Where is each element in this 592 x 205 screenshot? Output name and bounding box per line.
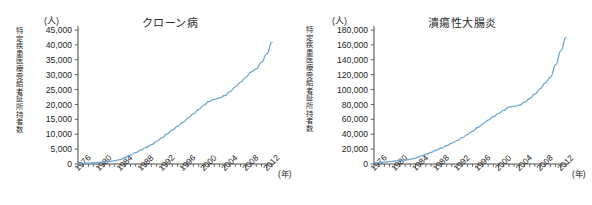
x-tick-label: 1988 xyxy=(135,152,155,172)
chart-svg-crohn: 05,00010,00015,00020,00025,00030,00035,0… xyxy=(26,24,282,176)
y-axis-caption-crohn: 特定疾患医療受給者証所持者数 xyxy=(14,27,24,133)
y-axis-group-crohn: 05,00010,00015,00020,00025,00030,00035,0… xyxy=(46,25,78,169)
y-tick-label: 100,000 xyxy=(337,85,368,95)
y-tick-label: 60,000 xyxy=(342,114,369,124)
y-tick-label: 160,000 xyxy=(337,40,368,50)
y-tick-label: 30,000 xyxy=(46,70,73,80)
x-axis-group-uc: 1976198019841988199219962000200420082012… xyxy=(368,152,585,179)
y-tick-label: 80,000 xyxy=(342,100,369,110)
x-tick-labels: 1976198019841988199219962000200420082012 xyxy=(368,152,575,172)
x-tick-label: 1992 xyxy=(451,152,471,172)
x-tick-label: 1996 xyxy=(472,152,492,172)
y-tick-marks xyxy=(75,30,78,164)
x-tick-label: 1988 xyxy=(431,152,451,172)
x-tick-label: 1984 xyxy=(410,152,430,172)
x-tick-label: 1992 xyxy=(156,152,176,172)
y-tick-marks xyxy=(371,30,374,164)
chart-panel-crohn: クローン病 特定疾患医療受給者証所持者数 (人) 05,00010,00015,… xyxy=(0,0,296,205)
x-tick-labels: 1976198019841988199219962000200420082012 xyxy=(72,152,281,172)
y-tick-label: 20,000 xyxy=(342,144,369,154)
chart-svg-ulcerative-colitis: 020,00040,00060,00080,000100,000120,0001… xyxy=(314,24,578,176)
y-tick-label: 15,000 xyxy=(46,114,73,124)
y-tick-label: 0 xyxy=(67,159,72,169)
data-line-crohn xyxy=(78,42,272,163)
y-tick-label: 180,000 xyxy=(337,25,368,35)
y-tick-label: 45,000 xyxy=(46,25,73,35)
data-line-ulcerative-colitis xyxy=(374,37,566,162)
x-tick-label: 1996 xyxy=(177,152,197,172)
x-tick-label: 1984 xyxy=(114,152,134,172)
y-tick-label: 40,000 xyxy=(46,40,73,50)
x-tick-label: 2008 xyxy=(240,152,260,172)
chart-panel-ulcerative-colitis: 潰瘍性大腸炎 特定疾患医療受給者証所持者数 (人) 020,00040,0006… xyxy=(296,0,592,205)
y-axis-caption-ulcerative-colitis: 特定疾患医療受給者証所持者数 xyxy=(304,26,314,132)
figure-container: クローン病 特定疾患医療受給者証所持者数 (人) 05,00010,00015,… xyxy=(0,0,592,205)
x-axis-unit-label: (年) xyxy=(572,169,586,179)
x-axis-group-crohn: 1976198019841988199219962000200420082012… xyxy=(72,152,291,179)
y-tick-label: 10,000 xyxy=(46,129,73,139)
x-tick-label: 2008 xyxy=(534,152,554,172)
y-tick-labels: 05,00010,00015,00020,00025,00030,00035,0… xyxy=(46,25,73,169)
x-tick-label: 2000 xyxy=(493,152,513,172)
x-axis-unit-label: (年) xyxy=(278,169,292,179)
y-tick-label: 5,000 xyxy=(50,144,72,154)
y-tick-label: 25,000 xyxy=(46,85,73,95)
plot-area-ulcerative-colitis: 020,00040,00060,00080,000100,000120,0001… xyxy=(314,24,578,176)
y-tick-label: 140,000 xyxy=(337,55,368,65)
y-tick-label: 40,000 xyxy=(342,129,369,139)
y-tick-label: 20,000 xyxy=(46,100,73,110)
x-tick-label: 2000 xyxy=(198,152,218,172)
y-tick-label: 0 xyxy=(363,159,368,169)
plot-area-crohn: 05,00010,00015,00020,00025,00030,00035,0… xyxy=(26,24,282,176)
y-tick-label: 35,000 xyxy=(46,55,73,65)
y-tick-label: 120,000 xyxy=(337,70,368,80)
y-tick-labels: 020,00040,00060,00080,000100,000120,0001… xyxy=(337,25,368,169)
x-tick-label: 2004 xyxy=(219,152,239,172)
y-axis-group-uc: 020,00040,00060,00080,000100,000120,0001… xyxy=(337,25,374,169)
x-tick-label: 1980 xyxy=(389,152,409,172)
x-tick-label: 2004 xyxy=(514,152,534,172)
